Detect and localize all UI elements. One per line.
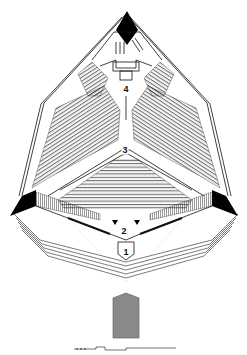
- top-apex-pier: [116, 11, 138, 45]
- label-area-3: 3: [121, 146, 128, 155]
- marker-left: [112, 220, 118, 225]
- right-pier: [212, 190, 238, 216]
- label-area-1: 1: [122, 248, 129, 257]
- label-area-2: 2: [120, 227, 127, 236]
- marker-right: [134, 220, 140, 225]
- seating-center: [58, 160, 192, 208]
- section-elevation: [113, 293, 139, 338]
- floor-plan: [0, 0, 247, 355]
- label-area-4: 4: [122, 85, 129, 94]
- scale-bar: [74, 347, 176, 350]
- left-pier: [10, 190, 36, 216]
